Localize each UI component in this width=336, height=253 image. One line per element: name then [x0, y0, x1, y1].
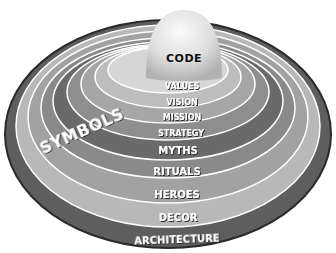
- label-rituals: RITUALS: [153, 166, 200, 177]
- label-myths: MYTHS: [158, 145, 198, 156]
- label-vision: VISION: [166, 98, 197, 107]
- label-decor: DECOR: [159, 212, 198, 223]
- label-mission: MISSION: [163, 113, 202, 122]
- culture-layers-diagram: CODE VALUES VISION MISSION STRATEGY MYTH…: [0, 0, 336, 253]
- label-heroes: HEROES: [154, 189, 199, 200]
- label-code: CODE: [166, 52, 202, 65]
- label-strategy: STRATEGY: [158, 129, 204, 138]
- label-values: VALUES: [165, 82, 200, 91]
